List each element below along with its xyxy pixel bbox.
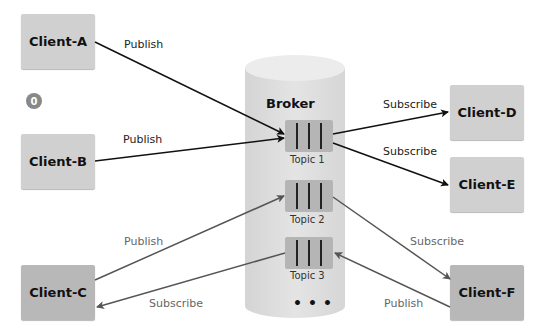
- edge-label-f-subscribe: Subscribe: [410, 235, 464, 248]
- edge-label-b-publish: Publish: [123, 133, 162, 146]
- pubsub-diagram: Broker Topic 1 Topic 2 Topic 3 ••• Clien…: [0, 0, 539, 331]
- arrows-layer: [0, 0, 539, 331]
- edge-a-to-topic1: [95, 42, 284, 134]
- edge-label-c-publish: Publish: [124, 235, 163, 248]
- edge-label-d-subscribe: Subscribe: [383, 98, 437, 111]
- edge-label-f-publish: Publish: [384, 297, 423, 310]
- edge-label-c-subscribe: Subscribe: [149, 297, 203, 310]
- edge-topic1-to-d: [333, 112, 448, 134]
- edge-label-e-subscribe: Subscribe: [383, 145, 437, 158]
- edge-label-a-publish: Publish: [124, 38, 163, 51]
